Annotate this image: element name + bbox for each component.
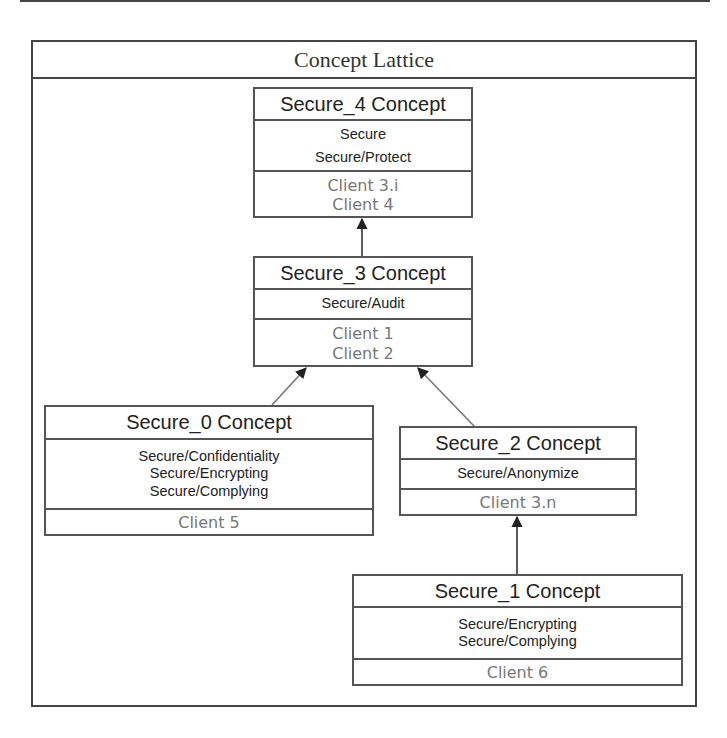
concept-objects: Client 5 — [46, 510, 372, 536]
concept-objects: Client 3.n — [401, 490, 635, 516]
concept-objects: Client 1 Client 2 — [255, 320, 471, 367]
attribute: Secure/Confidentiality — [138, 448, 279, 465]
attribute: Secure/Protect — [315, 146, 411, 168]
concept-name: Secure_3 Concept — [255, 258, 471, 290]
concept-attributes: Secure Secure/Protect — [255, 121, 471, 172]
concept-node-secure-3[interactable]: Secure_3 Concept Secure/Audit Client 1 C… — [253, 256, 473, 367]
attribute: Secure/Audit — [321, 295, 404, 312]
attribute: Secure/Encrypting — [150, 465, 268, 482]
attribute: Secure/Complying — [150, 483, 268, 500]
concept-attributes: Secure/Anonymize — [401, 460, 635, 490]
diagram-title: Concept Lattice — [33, 42, 695, 79]
object: Client 6 — [487, 663, 549, 682]
concept-name: Secure_0 Concept — [46, 407, 372, 440]
attribute: Secure/Anonymize — [457, 465, 579, 482]
concept-objects: Client 6 — [354, 660, 681, 686]
concept-objects: Client 3.i Client 4 — [255, 172, 471, 218]
attribute: Secure — [340, 123, 386, 145]
concept-node-secure-1[interactable]: Secure_1 Concept Secure/Encrypting Secur… — [352, 574, 683, 686]
object: Client 1 — [332, 324, 394, 343]
concept-attributes: Secure/Confidentiality Secure/Encrypting… — [46, 440, 372, 510]
top-rule — [20, 0, 710, 2]
object: Client 3.i — [327, 176, 398, 195]
concept-name: Secure_4 Concept — [255, 89, 471, 121]
concept-attributes: Secure/Encrypting Secure/Complying — [354, 608, 681, 660]
concept-attributes: Secure/Audit — [255, 290, 471, 320]
object: Client 2 — [332, 344, 394, 363]
concept-name: Secure_2 Concept — [401, 428, 635, 460]
concept-node-secure-4[interactable]: Secure_4 Concept Secure Secure/Protect C… — [253, 87, 473, 218]
concept-node-secure-2[interactable]: Secure_2 Concept Secure/Anonymize Client… — [399, 426, 637, 516]
concept-node-secure-0[interactable]: Secure_0 Concept Secure/Confidentiality … — [44, 405, 374, 536]
object: Client 4 — [332, 195, 394, 214]
object: Client 3.n — [480, 493, 557, 512]
object: Client 5 — [178, 513, 240, 532]
concept-name: Secure_1 Concept — [354, 576, 681, 608]
attribute: Secure/Encrypting — [458, 616, 576, 633]
attribute: Secure/Complying — [458, 633, 576, 650]
